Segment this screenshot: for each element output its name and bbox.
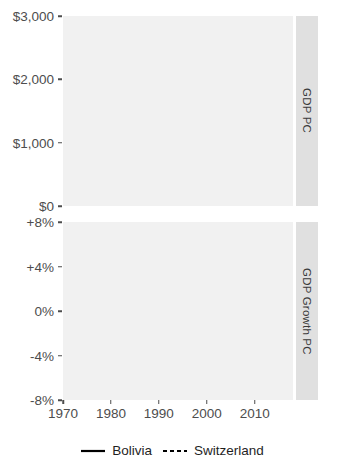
y-axis-tick-mark [58, 266, 62, 268]
x-axis-tick-label: 1990 [144, 406, 174, 421]
y-axis-tick-label: $3,000 [13, 9, 54, 24]
x-axis-tick-label: 1970 [48, 406, 78, 421]
y-axis-tick-label: $1,000 [13, 135, 54, 150]
y-axis-tick-mark [58, 205, 62, 207]
chart-figure: GDP PC $3,000$2,000$1,000$0 GDP Growth P… [0, 0, 344, 471]
y-axis-tick-label: +4% [27, 259, 54, 274]
y-axis-tick-mark [58, 355, 62, 357]
y-axis-tick-label: -4% [30, 348, 54, 363]
x-axis-tick-mark [110, 400, 112, 404]
x-axis-tick-mark [254, 400, 256, 404]
y-axis-tick-mark [58, 221, 62, 223]
x-axis-tick-mark [206, 400, 208, 404]
legend-label: Switzerland [194, 443, 264, 458]
legend-item-bolivia[interactable]: Bolivia [80, 443, 152, 458]
x-axis-tick-mark [158, 400, 160, 404]
strip-text-gdp-pc: GDP PC [301, 88, 313, 133]
y-axis-tick-mark [58, 142, 62, 144]
x-axis-tick-label: 2000 [192, 406, 222, 421]
y-axis-tick-label: +8% [27, 215, 54, 230]
strip-label-gdp-pc: GDP PC [296, 16, 318, 206]
y-axis-tick-mark [58, 15, 62, 17]
x-axis-tick-label: 2010 [240, 406, 270, 421]
panel-background-top [63, 16, 293, 206]
x-axis-tick-mark [62, 400, 64, 404]
panel-gdp-growth-pc [63, 222, 293, 400]
legend-key-solid-icon [80, 446, 106, 456]
y-axis-tick-label: $2,000 [13, 72, 54, 87]
y-axis-tick-mark [58, 79, 62, 81]
x-axis-tick-label: 1980 [96, 406, 126, 421]
chart-legend: BoliviaSwitzerland [0, 443, 344, 458]
strip-label-gdp-growth-pc: GDP Growth PC [296, 222, 318, 400]
panel-background-bottom [63, 222, 293, 400]
legend-item-switzerland[interactable]: Switzerland [162, 443, 264, 458]
strip-text-gdp-growth-pc: GDP Growth PC [301, 268, 313, 355]
y-axis-tick-mark [58, 310, 62, 312]
legend-key-dashed-icon [162, 446, 188, 456]
y-axis-tick-label: $0 [39, 199, 54, 214]
panel-gdp-pc [63, 16, 293, 206]
legend-label: Bolivia [112, 443, 152, 458]
y-axis-tick-label: 0% [34, 304, 54, 319]
